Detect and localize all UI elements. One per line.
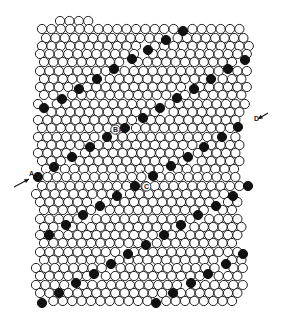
lattice-atom <box>113 181 122 190</box>
lattice-atom <box>231 172 240 181</box>
lattice-atom <box>233 49 242 58</box>
lattice-atom <box>90 172 99 181</box>
lattice-atom <box>84 123 93 132</box>
lattice-atom <box>129 271 138 280</box>
lattice-atom <box>216 123 225 132</box>
lattice-atom <box>115 90 124 99</box>
lattice-atom <box>233 271 242 280</box>
marked-atom <box>240 55 249 64</box>
marked-atom <box>44 230 53 239</box>
marked-atom <box>89 269 98 278</box>
lattice-atom <box>139 271 148 280</box>
lattice-atom <box>193 132 202 141</box>
lattice-atom <box>56 24 65 33</box>
lattice-atom <box>120 271 129 280</box>
lattice-atom <box>203 172 212 181</box>
lattice-atom <box>152 205 161 214</box>
lattice-atom <box>101 247 110 256</box>
lattice-atom <box>162 205 171 214</box>
marked-atom <box>109 64 118 73</box>
lattice-atom <box>101 271 110 280</box>
lattice-atom <box>80 132 89 141</box>
lattice-atom <box>207 123 216 132</box>
marked-atom <box>243 181 252 190</box>
marked-atom <box>178 26 187 35</box>
marked-atom <box>233 122 242 131</box>
lattice-atom <box>242 82 251 91</box>
marked-atom <box>217 132 226 141</box>
marked-atom <box>61 220 70 229</box>
lattice-atom <box>131 24 140 33</box>
lattice-diagram: A D BC <box>0 0 282 324</box>
lattice-atom <box>105 90 114 99</box>
lattice-atom <box>209 90 218 99</box>
lattice-atom <box>233 230 242 239</box>
lattice-atom <box>178 123 187 132</box>
lattice-atom <box>216 24 225 33</box>
lattice-atom <box>169 123 178 132</box>
lattice-atom <box>124 238 133 247</box>
marked-atom <box>102 132 111 141</box>
lattice-atom <box>99 172 108 181</box>
lattice-atom <box>105 238 114 247</box>
lattice-atom <box>115 296 124 305</box>
lattice-atom <box>45 271 54 280</box>
lattice-atom <box>190 296 199 305</box>
lattice-atom <box>242 66 251 75</box>
lattice-atom <box>143 205 152 214</box>
marked-atom <box>221 259 230 268</box>
lattice-atom <box>176 271 185 280</box>
lattice-atom <box>86 238 95 247</box>
marked-atom <box>49 162 58 171</box>
lattice-atom <box>199 90 208 99</box>
marked-atom <box>228 191 237 200</box>
lattice-atom <box>193 172 202 181</box>
lattice-atom <box>86 90 95 99</box>
lattice-atom <box>152 90 161 99</box>
marked-atom <box>120 123 129 132</box>
marked-atom <box>78 210 87 219</box>
label-a: A <box>29 170 34 177</box>
lattice-atom <box>180 57 189 66</box>
lattice-atom <box>162 90 171 99</box>
marked-atom <box>143 45 152 54</box>
marked-atom <box>92 74 101 83</box>
marked-atom <box>183 152 192 161</box>
lattice-atom <box>227 90 236 99</box>
lattice-atom <box>77 57 86 66</box>
lattice-atom <box>75 123 84 132</box>
marked-atom <box>39 103 48 112</box>
lattice-atom <box>171 238 180 247</box>
marked-atom <box>123 249 132 258</box>
lattice-atom <box>227 205 236 214</box>
lattice-atom <box>197 123 206 132</box>
lattice-atom <box>214 271 223 280</box>
lattice-atom <box>209 238 218 247</box>
lattice-atom <box>180 238 189 247</box>
marked-atom <box>166 161 175 170</box>
marked-atom <box>159 230 168 239</box>
lattice-atom <box>58 57 67 66</box>
lattice-atom <box>238 263 247 272</box>
marked-atom <box>138 113 147 122</box>
lattice-atom <box>158 271 167 280</box>
lattice-atom <box>148 288 157 297</box>
lattice-atom <box>227 296 236 305</box>
lattice-atom <box>197 24 206 33</box>
lattice-atom <box>188 140 197 149</box>
lattice-atom <box>209 296 218 305</box>
lattice-atom <box>221 172 230 181</box>
lattice-atom <box>118 172 127 181</box>
marked-atom <box>155 103 164 112</box>
marked-atom <box>186 278 195 287</box>
marked-atom <box>130 181 139 190</box>
lattice-atom <box>223 271 232 280</box>
lattice-atom <box>143 296 152 305</box>
lattice-atom <box>167 271 176 280</box>
lattice-atom <box>152 57 161 66</box>
lattice-atom <box>49 90 58 99</box>
lattice-atom <box>150 123 159 132</box>
lattice-atom <box>131 123 140 132</box>
lattice-atom <box>133 90 142 99</box>
lattice-atom <box>88 189 97 198</box>
